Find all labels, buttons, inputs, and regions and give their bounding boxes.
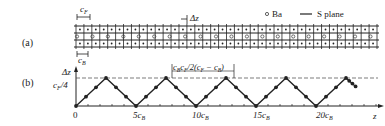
x-tick-label-20cb: 20cB [316,110,333,121]
dz-label: Δz [189,13,199,23]
x-tick-label-10cb: 10cB [192,110,209,121]
ba-legend-icon [265,12,268,15]
cb-dimension: cB [77,51,88,66]
diagram: (a) cF Δz Ba S plane cB [0,0,385,126]
y-tick-label: cF/4 [53,80,68,91]
x-axis-label: z [372,111,377,121]
cb-label: cB [78,55,86,66]
cf-label: cF [80,4,88,15]
panel-a: (a) cF Δz Ba S plane cB [22,4,379,66]
y-axis-arrow-icon [74,66,78,72]
cf-dimension: cF [77,4,90,20]
panel-b-label: (b) [22,77,34,89]
x-axis-arrow-icon [378,104,384,108]
x-tick-label-0: 0 [73,110,78,120]
y-axis-label: Δz [61,67,71,77]
s-plane-legend-label: S plane [317,9,344,19]
period-annotation: cBcF/2(cF − cB) [172,62,234,78]
legend: Ba S plane [265,9,343,19]
panel-a-label: (a) [22,37,33,49]
annotation-text: cBcF/2(cF − cB) [173,62,224,73]
delta-z-curve [74,76,357,108]
ba-legend-label: Ba [272,9,282,19]
x-tick-label-5cb: 5cB [133,110,146,121]
dz-marker: Δz [181,13,199,24]
panel-b: (b) Δz cF/4 z cBcF/2(cF − cB) 0 5cB 10cB… [22,62,384,121]
x-tick-label-15cb: 15cB [253,110,270,121]
crystal-lattice [74,24,379,49]
